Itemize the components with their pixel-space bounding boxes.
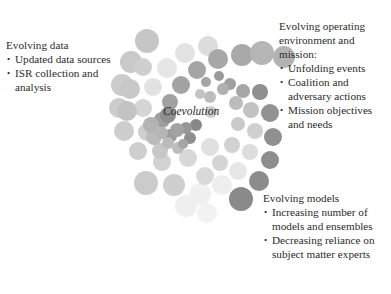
spiral-dot <box>178 139 188 149</box>
coevolution-diagram: Coevolution Evolving data Updated data s… <box>0 0 391 294</box>
list-item: Coalition and adversary actions <box>279 75 391 103</box>
spiral-dot <box>135 29 159 53</box>
spiral-dot <box>261 104 279 122</box>
spiral-dot <box>117 101 137 121</box>
spiral-dot <box>144 78 162 96</box>
spiral-dot <box>249 171 269 191</box>
evolving-environment-title: Evolving operating environment and missi… <box>279 19 391 61</box>
spiral-dot <box>242 144 258 160</box>
evolving-models-block: Evolving models Increasing number of mod… <box>263 191 389 261</box>
spiral-dot <box>204 91 216 103</box>
spiral-dot <box>212 155 228 171</box>
spiral-dot <box>247 123 263 139</box>
evolving-environment-block: Evolving operating environment and missi… <box>279 19 391 131</box>
spiral-dot <box>188 61 206 79</box>
spiral-dot <box>143 117 159 133</box>
evolving-models-title: Evolving models <box>263 191 389 205</box>
spiral-dot <box>129 142 147 160</box>
spiral-dot <box>157 58 177 78</box>
spiral-dot <box>229 162 247 180</box>
spiral-dot <box>163 174 185 196</box>
spiral-dot <box>243 102 259 118</box>
spiral-dot <box>229 96 243 110</box>
list-item: Decreasing reliance on subject matter ex… <box>263 233 389 261</box>
evolving-environment-list: Unfolding events Coalition and adversary… <box>279 61 391 131</box>
spiral-dot <box>114 121 134 141</box>
list-item: Increasing number of models and ensemble… <box>263 205 389 233</box>
spiral-dot <box>172 76 190 94</box>
spiral-dot <box>134 58 152 76</box>
spiral-dot <box>212 175 232 195</box>
spiral-dot <box>134 99 152 117</box>
spiral-dot <box>175 195 197 217</box>
spiral-dot <box>214 71 224 81</box>
spiral-dot <box>236 84 250 98</box>
center-label: Coevolution <box>163 105 219 117</box>
spiral-dot <box>196 167 214 185</box>
spiral-dot <box>231 44 253 66</box>
list-item: ISR collection and analysis <box>6 66 126 94</box>
spiral-dot <box>134 171 158 195</box>
spiral-dot <box>250 41 274 65</box>
evolving-models-list: Increasing number of models and ensemble… <box>263 205 389 261</box>
evolving-data-list: Updated data sources ISR collection and … <box>6 52 126 94</box>
spiral-dot <box>252 84 268 100</box>
list-item: Mission objectives and needs <box>279 103 391 131</box>
spiral-dot <box>170 123 184 137</box>
spiral-dot <box>224 137 240 153</box>
list-item: Updated data sources <box>6 52 126 66</box>
spiral-dot <box>201 138 219 156</box>
spiral-dot <box>175 43 195 63</box>
evolving-data-block: Evolving data Updated data sources ISR c… <box>6 38 126 94</box>
spiral-dot <box>229 187 253 211</box>
spiral-dot <box>197 203 217 223</box>
spiral-dot <box>162 137 174 149</box>
spiral-dot <box>217 83 229 95</box>
spiral-dot <box>261 151 279 169</box>
spiral-dot <box>208 49 228 69</box>
spiral-dot <box>195 89 205 99</box>
spiral-dot <box>231 117 245 131</box>
list-item: Unfolding events <box>279 61 391 75</box>
evolving-data-title: Evolving data <box>6 38 126 52</box>
spiral-dot <box>201 77 211 87</box>
